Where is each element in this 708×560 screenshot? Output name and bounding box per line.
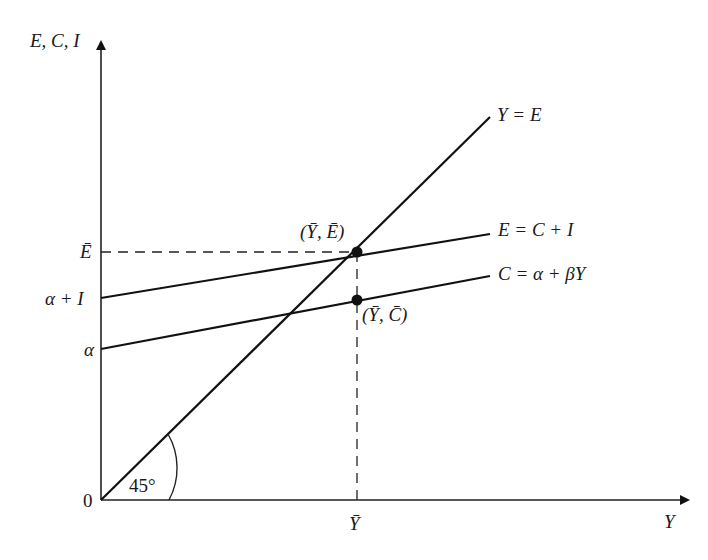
origin-label: 0 bbox=[83, 490, 93, 511]
equilibrium-point bbox=[352, 247, 363, 258]
tick-label-alpha-plus-i: α + I bbox=[45, 288, 85, 309]
x-axis-label: Y bbox=[664, 511, 677, 532]
label-expenditure-line: E = C + I bbox=[497, 219, 575, 240]
curves bbox=[101, 117, 490, 500]
consumption-line bbox=[101, 276, 490, 349]
label-equilibrium-point: (Ȳ, Ē) bbox=[300, 221, 344, 243]
axes bbox=[101, 42, 688, 500]
angle-label: 45° bbox=[129, 475, 156, 496]
consumption-equilibrium-point bbox=[352, 295, 363, 306]
keynesian-cross-diagram: E, C, I Y 0 Ē α + I α Ȳ Y = E E = C + I … bbox=[0, 0, 708, 560]
angle-arc bbox=[168, 434, 177, 500]
tick-label-y-bar: Ȳ bbox=[349, 513, 362, 534]
label-forty-five-line: Y = E bbox=[497, 104, 542, 125]
expenditure-line bbox=[101, 234, 490, 298]
label-consumption-line: C = α + βY bbox=[498, 263, 588, 284]
label-consumption-point: (Ȳ, C̄) bbox=[362, 304, 407, 326]
tick-label-e-bar: Ē bbox=[79, 241, 92, 262]
forty-five-degree-line bbox=[101, 117, 490, 500]
tick-label-alpha: α bbox=[84, 339, 95, 360]
y-axis-label: E, C, I bbox=[29, 30, 81, 51]
